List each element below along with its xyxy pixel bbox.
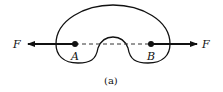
force-label-right: F xyxy=(201,38,210,51)
figure-caption: (a) xyxy=(104,75,118,86)
force-label-left: F xyxy=(12,38,21,51)
point-a-dot xyxy=(72,41,78,47)
force-diagram: F F A B (a) xyxy=(0,0,223,92)
point-label-b: B xyxy=(146,50,155,63)
point-label-a: A xyxy=(70,50,79,63)
point-b-dot xyxy=(148,41,154,47)
